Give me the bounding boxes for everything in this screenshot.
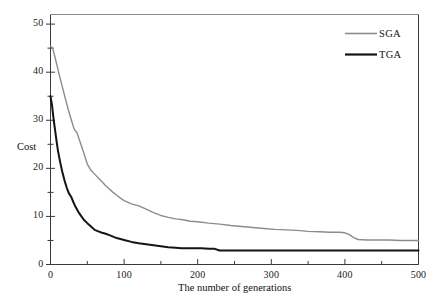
series-line-tga xyxy=(51,96,419,250)
y-tick-label: 50 xyxy=(24,17,44,28)
chart-canvas xyxy=(0,0,435,307)
legend-swatches xyxy=(345,34,377,55)
x-tick-label: 0 xyxy=(42,269,60,280)
x-tick-label: 300 xyxy=(262,269,280,280)
y-tick-label: 20 xyxy=(24,161,44,172)
y-tick-label: 30 xyxy=(24,113,44,124)
axis-ticks xyxy=(46,24,419,264)
x-axis-title: The number of generations xyxy=(178,282,291,293)
x-tick-label: 100 xyxy=(115,269,133,280)
x-tick-label: 200 xyxy=(189,269,207,280)
x-tick-label: 500 xyxy=(410,269,428,280)
y-tick-label: 40 xyxy=(24,65,44,76)
y-axis-title: Cost xyxy=(17,141,36,152)
y-tick-label: 0 xyxy=(24,258,44,269)
legend-item-sga: SGA xyxy=(379,28,401,39)
plot-frame xyxy=(51,15,419,265)
x-tick-label: 400 xyxy=(336,269,354,280)
series-line-sga xyxy=(51,46,419,240)
legend-item-tga: TGA xyxy=(379,49,401,60)
y-tick-label: 10 xyxy=(24,209,44,220)
chart-figure: 0100200300400500 01020304050 Cost The nu… xyxy=(0,0,435,307)
data-series-group xyxy=(51,46,419,250)
